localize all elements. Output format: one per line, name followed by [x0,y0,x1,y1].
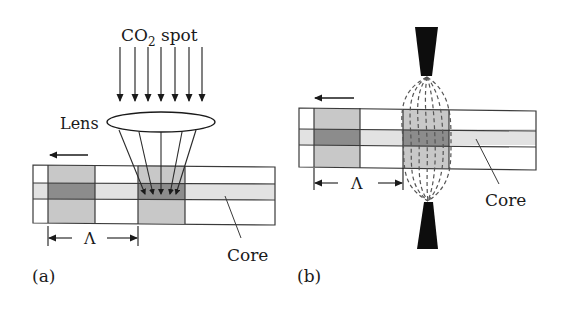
panel-label-a: (a) [32,266,55,286]
panel-label-b: (b) [297,266,321,286]
period-label-a: Λ [83,229,96,248]
lens-label: Lens [60,114,99,133]
core-label-b: Core [485,190,526,210]
co2-spot-label: CO2 spot [121,25,198,49]
lpg-fabrication-diagram: CO2 spot Lens [0,0,572,314]
panel-a: CO2 spot Lens [32,25,275,286]
co2-beam-arrows-icon [120,47,202,101]
electrode-bottom-icon [417,202,438,249]
electrode-top-icon [415,27,438,76]
fiber-a [33,165,275,225]
period-label-b: Λ [350,174,363,193]
panel-b: Λ Core (b) [297,27,536,286]
core-label-a: Core [227,245,268,265]
lens-icon [107,112,215,132]
